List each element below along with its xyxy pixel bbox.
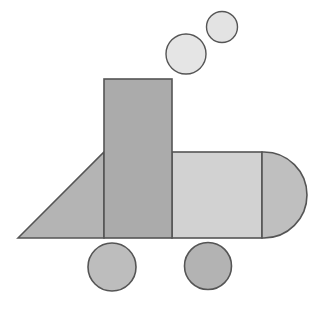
medium-circle-shape [166, 34, 206, 74]
small-circle-shape [207, 12, 238, 43]
scene-svg [0, 0, 316, 312]
tall-rectangle-shape [104, 79, 172, 238]
shape-canvas [0, 0, 316, 312]
left-wheel-shape [88, 243, 136, 291]
body-rectangle-shape [172, 152, 262, 238]
right-wheel-shape [185, 243, 232, 290]
